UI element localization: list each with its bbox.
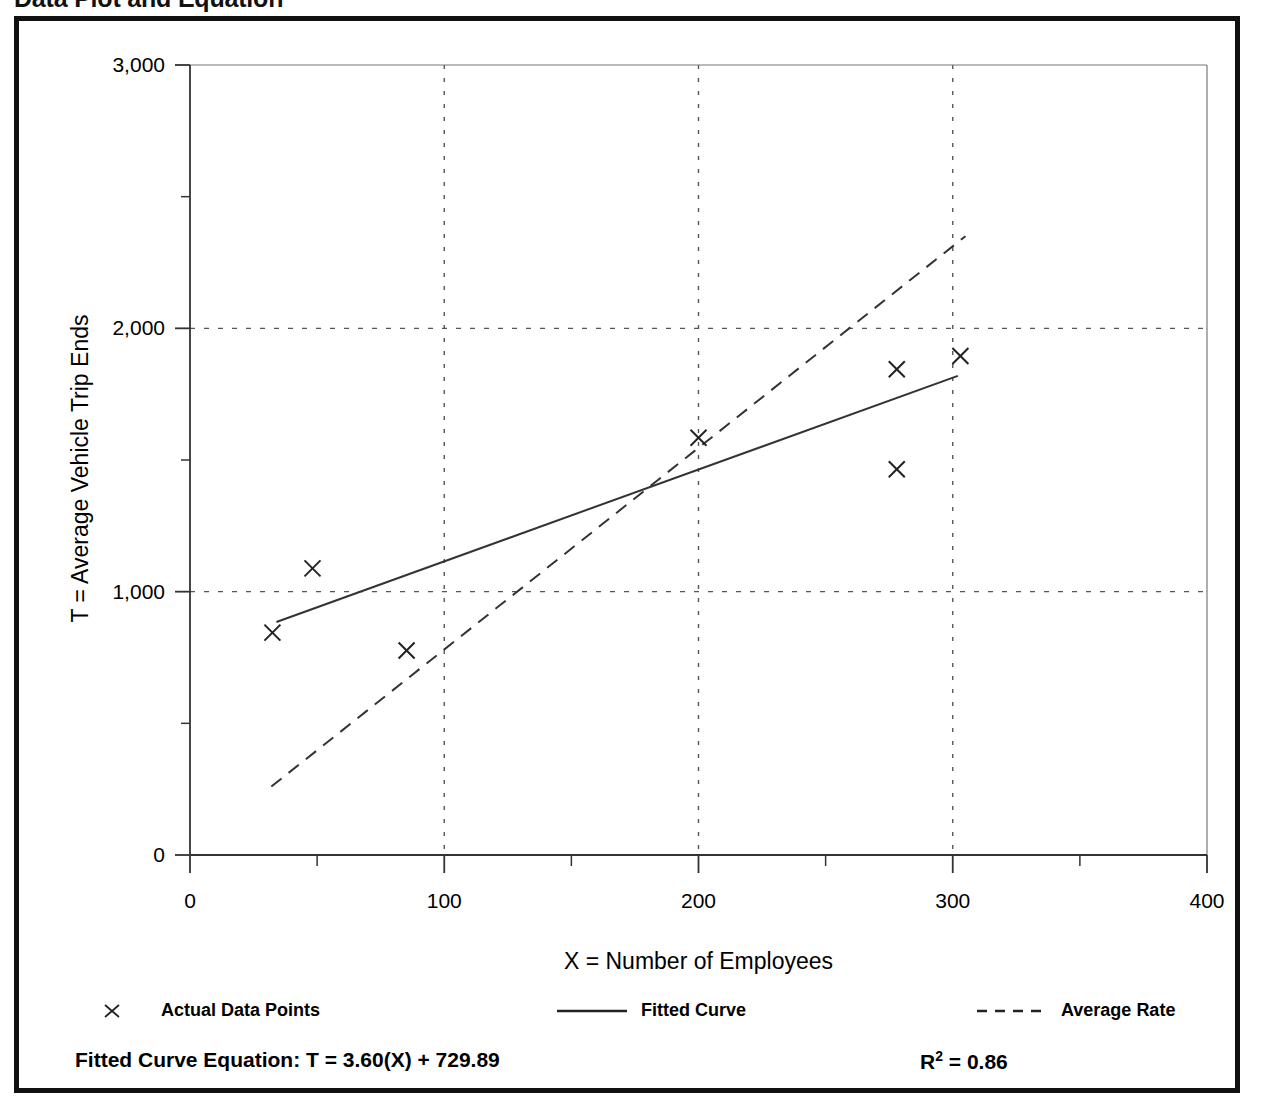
page-title: Data Plot and Equation: [14, 0, 283, 13]
figure-frame: [14, 16, 1240, 1093]
